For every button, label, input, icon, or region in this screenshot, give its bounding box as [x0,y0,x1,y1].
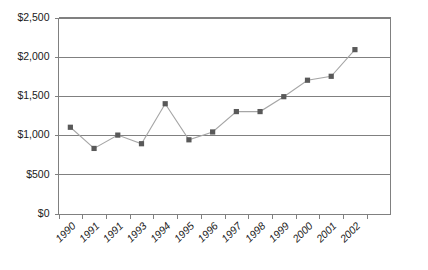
data-point-1999-1490 [281,94,286,99]
y-axis-label-0: $0 [38,207,50,219]
data-point-1994-1400 [163,101,168,106]
y-axis-tick-labels: $0$500$1,000$1,500$2,000$2,500 [17,11,49,219]
x-axis-label-8: 1998 [242,219,267,244]
data-point-1990-1100 [68,125,73,130]
x-axis-label-3: 1993 [124,219,149,244]
x-axis-label-12: 2002 [337,219,363,245]
data-point-1995-940 [186,137,191,142]
line-chart: $0$500$1,000$1,500$2,000$2,500 199019911… [0,0,428,270]
data-point-1991-830 [91,146,96,151]
chart-container: $0$500$1,000$1,500$2,000$2,500 199019911… [0,0,428,270]
y-axis-label-1000: $1,000 [17,128,49,140]
data-point-1991-1000 [115,133,120,138]
x-axis-label-7: 1997 [219,219,245,245]
x-axis-label-4: 1994 [148,219,173,244]
data-point-2002-2090 [352,47,357,52]
data-point-1997-1300 [234,109,239,114]
y-axis-tick-marks [55,19,59,215]
data-point-1996-1040 [210,129,215,134]
y-axis-label-1500: $1,500 [17,89,49,101]
x-axis-label-1: 1991 [76,219,101,244]
x-axis-label-6: 1996 [195,219,220,244]
data-point-1993-890 [139,141,144,146]
x-axis-label-11: 2001 [313,219,339,245]
x-axis-tick-marks [60,215,368,219]
x-axis-label-9: 1999 [266,219,291,244]
x-axis-label-10: 2000 [289,219,315,245]
data-point-2001-1750 [329,74,334,79]
data-point-1998-1300 [257,109,262,114]
x-axis-label-5: 1995 [171,219,196,244]
data-point-2000-1700 [305,78,310,83]
y-axis-label-2500: $2,500 [17,11,49,23]
x-axis-label-0: 1990 [53,219,78,244]
x-axis-tick-labels: 1990199119911993199419951996199719981999… [53,219,363,246]
x-axis-label-2: 1991 [100,219,125,244]
plot-area-border [59,18,391,214]
y-axis-label-2000: $2,000 [17,50,49,62]
y-axis-label-500: $500 [26,168,50,180]
gridlines [59,19,391,215]
